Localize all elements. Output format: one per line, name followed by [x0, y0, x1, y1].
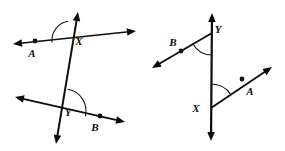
figure-content: ABXYBAYX [13, 12, 272, 144]
upper-line-through-a-arrowhead-end [127, 28, 136, 36]
right-diagram-vertex-y-label: Y [215, 23, 223, 35]
right-diagram-point-b-label: B [168, 36, 176, 48]
ray-through-a-arrowhead-end [262, 67, 272, 75]
upper-line-through-a-arrowhead-start [13, 39, 22, 47]
right-diagram-point-b-dot [179, 49, 184, 54]
ray-through-a-segment [211, 70, 268, 108]
left-diagram-point-b-dot [98, 114, 103, 119]
vertical-line-with-two-rays: BAYX [152, 13, 272, 141]
transversal-crossing-two-lines: ABXY [13, 12, 136, 144]
transversal-steep-line-arrowhead-start [73, 12, 80, 22]
left-diagram-vertex-x-label: X [74, 35, 83, 47]
left-diagram-point-a-dot [33, 39, 38, 44]
transversal-steep-line-segment [57, 17, 77, 139]
left-diagram-vertex-y-label: Y [65, 106, 73, 118]
vertical-line-arrowhead-start [208, 13, 216, 22]
right-diagram-ray-through-a [211, 67, 272, 108]
left-diagram-point-b-label: B [90, 121, 98, 133]
geometry-canvas: ABXYBAYX [0, 0, 285, 151]
left-diagram-point-a-label: A [27, 47, 35, 59]
right-diagram-angle-arc-at-y [193, 44, 212, 55]
vertical-line-arrowhead-end [207, 132, 215, 141]
right-diagram-angle-arc-at-x [211, 84, 231, 95]
lower-line-through-b-arrowhead-end [115, 116, 125, 123]
right-diagram-point-a-dot [240, 77, 245, 82]
lower-line-through-b-arrowhead-start [15, 95, 25, 102]
right-diagram-vertex-x-label: X [191, 102, 200, 114]
geometry-figure: ABXYBAYX Two transversal angle diagrams [0, 0, 285, 151]
ray-through-b-segment [156, 33, 212, 66]
transversal-steep-line-arrowhead-end [54, 135, 61, 145]
vertical-line-segment [211, 18, 212, 136]
right-diagram-point-a-label: A [245, 85, 253, 97]
left-diagram-transversal-steep-line [54, 12, 81, 144]
